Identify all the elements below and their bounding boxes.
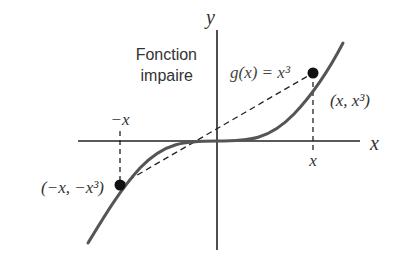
point-label-negative: (−x, −x³) <box>41 178 104 197</box>
odd-function-diagram: y x Fonction impaire g(x) = x³ −x x (x, … <box>0 0 397 256</box>
point-label-positive: (x, x³) <box>330 91 370 110</box>
tick-label-pos-x: x <box>308 151 317 170</box>
point-positive <box>308 68 319 79</box>
caption-line2: impaire <box>141 67 194 84</box>
point-negative <box>115 180 126 191</box>
y-axis-label: y <box>204 6 215 29</box>
caption-line1: Fonction <box>136 46 197 63</box>
x-axis-label: x <box>369 132 379 154</box>
tick-label-neg-x: −x <box>110 110 129 129</box>
function-label: g(x) = x³ <box>230 63 291 82</box>
cubic-curve <box>88 43 343 243</box>
